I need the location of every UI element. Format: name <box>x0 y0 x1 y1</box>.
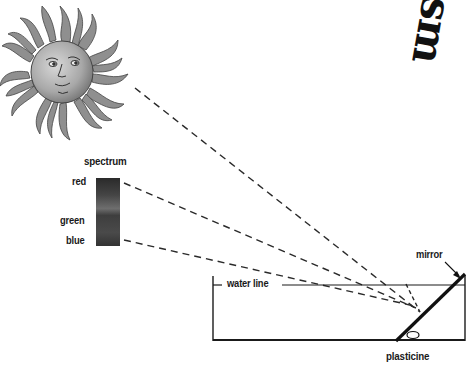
plasticine-label: plasticine <box>386 350 429 362</box>
red-ray <box>124 183 416 308</box>
blue-ray <box>124 240 414 306</box>
plasticine-icon <box>407 332 419 339</box>
spectrum-bar <box>96 178 120 246</box>
title-fragment: sm <box>398 2 476 102</box>
sun-ray <box>135 88 420 312</box>
blue-label: blue <box>66 234 85 246</box>
water-line-label: water line <box>227 277 268 289</box>
green-label: green <box>60 214 85 226</box>
spectrum-label: spectrum <box>84 155 127 167</box>
mirror-label: mirror <box>416 248 443 260</box>
arrow-icon <box>445 262 461 279</box>
sun-icon <box>0 6 128 140</box>
red-label: red <box>72 175 86 187</box>
prism-experiment-diagram: sm spectrum red green blue water line mi… <box>0 0 476 378</box>
